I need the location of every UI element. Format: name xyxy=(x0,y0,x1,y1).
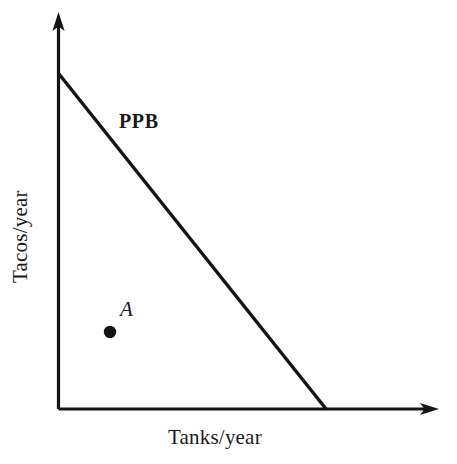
plot-canvas xyxy=(0,0,457,464)
x-axis-label: Tanks/year xyxy=(168,427,262,448)
point-a-marker xyxy=(104,326,116,338)
ppb-curve-label: PPB xyxy=(119,111,159,131)
ppb-figure: Tacos/year Tanks/year PPB A xyxy=(0,0,457,464)
ppb-frontier-line xyxy=(59,74,327,410)
point-a-label: A xyxy=(120,299,133,320)
y-axis-label: Tacos/year xyxy=(10,83,40,283)
